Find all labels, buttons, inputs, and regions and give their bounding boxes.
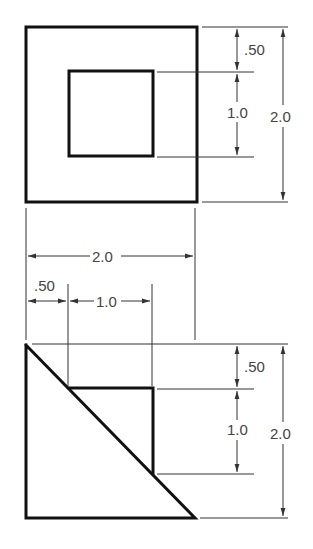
horizontal-dimensions: 2.0 .50 1.0 bbox=[26, 208, 195, 386]
dim-label-front-overall: 2.0 bbox=[270, 425, 291, 442]
inner-square bbox=[69, 71, 153, 156]
dim-label-width-inner: 1.0 bbox=[96, 293, 117, 310]
dim-label-front-inner: 1.0 bbox=[227, 421, 248, 438]
triangle bbox=[26, 345, 195, 518]
front-view: .50 1.0 2.0 bbox=[26, 344, 291, 518]
outer-square bbox=[26, 27, 197, 202]
dim-label-width-offset: .50 bbox=[34, 277, 55, 294]
dim-label-offset: .50 bbox=[244, 41, 265, 58]
dim-label-width-overall: 2.0 bbox=[92, 248, 113, 265]
dim-label-overall: 2.0 bbox=[270, 108, 291, 125]
dim-label-front-offset: .50 bbox=[244, 358, 265, 375]
technical-drawing: .50 1.0 2.0 2.0 .50 1.0 .5 bbox=[0, 0, 313, 549]
top-view: .50 1.0 2.0 bbox=[26, 27, 291, 202]
dim-label-inner: 1.0 bbox=[227, 104, 248, 121]
